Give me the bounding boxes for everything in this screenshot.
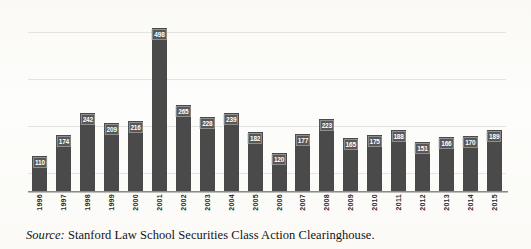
- source-label: Source:: [26, 228, 65, 242]
- x-axis-tick-label: 1996: [36, 194, 43, 211]
- bar-slot: 242: [76, 8, 100, 192]
- x-label-slot: 1997: [52, 194, 76, 224]
- bar-value-label: 228: [200, 118, 214, 129]
- bar-value-label: 188: [391, 131, 405, 142]
- x-label-slot: 2015: [482, 194, 506, 224]
- x-label-slot: 2003: [195, 194, 219, 224]
- bar-slot: 151: [411, 8, 435, 192]
- bar-slot: 239: [219, 8, 243, 192]
- x-label-slot: 1996: [28, 194, 52, 224]
- x-axis-tick-label: 2002: [180, 194, 187, 211]
- bar-value-label: 120: [272, 154, 286, 165]
- bar-slot: 223: [315, 8, 339, 192]
- bar: 177: [295, 134, 310, 192]
- bar-value-label: 110: [33, 157, 47, 168]
- bar: 239: [224, 113, 239, 192]
- source-caption: Source: Stanford Law School Securities C…: [26, 228, 375, 243]
- bar: 265: [176, 105, 191, 192]
- x-axis-tick-label: 2011: [395, 194, 402, 210]
- x-label-slot: 2012: [411, 194, 435, 224]
- bar: 216: [128, 121, 143, 192]
- x-axis-tick-label: 2005: [252, 194, 259, 211]
- x-label-slot: 2001: [148, 194, 172, 224]
- x-axis-tick-label: 2013: [443, 194, 450, 211]
- bar-slot: 175: [363, 8, 387, 192]
- x-axis-tick-label: 2004: [228, 194, 235, 211]
- x-label-slot: 2009: [339, 194, 363, 224]
- bar-slot: 177: [291, 8, 315, 192]
- bar: 498: [152, 28, 167, 192]
- bar-value-label: 182: [248, 133, 262, 144]
- bar-value-label: 216: [128, 122, 142, 133]
- bar-value-label: 498: [152, 29, 166, 40]
- x-label-slot: 1998: [76, 194, 100, 224]
- bar: 170: [463, 136, 478, 192]
- bar-value-label: 170: [463, 137, 477, 148]
- bar-value-label: 189: [487, 131, 501, 142]
- x-axis-tick-label: 2001: [156, 194, 163, 211]
- plot-area: 1101742422092164982652282391821201772231…: [28, 8, 506, 192]
- bar-value-label: 177: [296, 135, 310, 146]
- x-label-slot: 1999: [100, 194, 124, 224]
- bar: 189: [487, 130, 502, 192]
- x-axis-tick-label: 1998: [84, 194, 91, 211]
- bar-slot: 216: [124, 8, 148, 192]
- x-label-slot: 2006: [267, 194, 291, 224]
- bar-slot: 170: [458, 8, 482, 192]
- bar: 182: [248, 132, 263, 192]
- bar: 175: [367, 135, 382, 193]
- bar-slot: 182: [243, 8, 267, 192]
- bar: 188: [391, 130, 406, 192]
- bar-value-label: 239: [224, 114, 238, 125]
- x-label-slot: 2005: [243, 194, 267, 224]
- bar: 209: [104, 123, 119, 192]
- x-label-slot: 2011: [387, 194, 411, 224]
- x-label-slot: 2000: [124, 194, 148, 224]
- bar-slot: 498: [148, 8, 172, 192]
- bar-slot: 188: [387, 8, 411, 192]
- bar: 166: [439, 137, 454, 192]
- x-axis-tick-label: 2012: [419, 194, 426, 211]
- x-label-slot: 2008: [315, 194, 339, 224]
- bar-value-label: 151: [415, 143, 429, 154]
- x-label-slot: 2007: [291, 194, 315, 224]
- x-axis-tick-label: 1999: [108, 194, 115, 211]
- bar: 228: [200, 117, 215, 192]
- bar-value-label: 265: [176, 106, 190, 117]
- bar: 242: [80, 113, 95, 193]
- x-label-slot: 2002: [171, 194, 195, 224]
- bar-slot: 228: [195, 8, 219, 192]
- x-label-slot: 2013: [434, 194, 458, 224]
- bar-value-label: 165: [344, 139, 358, 150]
- bar-value-label: 166: [439, 138, 453, 149]
- bar: 120: [272, 153, 287, 192]
- bar: 151: [415, 142, 430, 192]
- x-axis-tick-label: 2000: [132, 194, 139, 211]
- bar-value-label: 209: [105, 124, 119, 135]
- bar: 110: [32, 156, 47, 192]
- bar-value-label: 174: [57, 136, 71, 147]
- x-axis-tick-label: 2008: [323, 194, 330, 211]
- bar-value-label: 175: [368, 136, 382, 147]
- bar-slot: 110: [28, 8, 52, 192]
- bar-value-label: 223: [320, 120, 334, 131]
- bar-slot: 165: [339, 8, 363, 192]
- bar-slot: 120: [267, 8, 291, 192]
- bar-slot: 189: [482, 8, 506, 192]
- x-axis-tick-label: 2003: [204, 194, 211, 211]
- bar-slot: 265: [171, 8, 195, 192]
- bar-slot: 174: [52, 8, 76, 192]
- x-axis-tick-label: 2010: [371, 194, 378, 211]
- x-axis-tick-label: 2007: [299, 194, 306, 211]
- x-axis-tick-label: 2006: [276, 194, 283, 211]
- x-axis-tick-label: 2009: [347, 194, 354, 211]
- x-axis-tick-label: 2014: [467, 194, 474, 211]
- x-label-slot: 2010: [363, 194, 387, 224]
- bar: 174: [56, 135, 71, 192]
- x-axis-tick-label: 1997: [60, 194, 67, 211]
- source-text: Stanford Law School Securities Class Act…: [65, 228, 375, 242]
- x-label-slot: 2014: [458, 194, 482, 224]
- x-axis-line-shadow: [28, 192, 508, 193]
- bar-slot: 209: [100, 8, 124, 192]
- chart-page: 1101742422092164982652282391821201772231…: [0, 0, 531, 249]
